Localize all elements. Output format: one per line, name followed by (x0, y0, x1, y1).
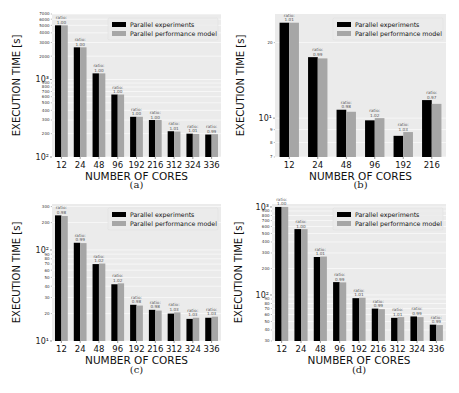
chart-a-xtick-label: 336 (203, 160, 219, 170)
chart-c-bar-model (193, 318, 199, 341)
chart-b-bar-model (432, 104, 442, 157)
chart-c-ytick-minor-label: 90 (44, 252, 50, 257)
chart-c-xtick-label: 216 (147, 344, 163, 354)
chart-c-bar-model (61, 216, 67, 341)
chart-d-xtick-label: 324 (409, 344, 425, 354)
chart-c-ratio-label: 1.02 (113, 278, 123, 283)
chart-d-bar-model (378, 309, 385, 341)
chart-a-xtick-label: 312 (166, 160, 182, 170)
chart-c-bar-experiment (186, 319, 192, 341)
chart-a-bar-experiment (205, 135, 211, 157)
chart-a-bar-model (99, 73, 105, 157)
chart-d-ytick-minor-label: 60 (264, 312, 270, 317)
chart-d-bar-experiment (333, 282, 340, 341)
chart-c-bar-model (80, 243, 86, 341)
chart-d-xtick-label: 192 (351, 344, 367, 354)
chart-c-xtick-label: 12 (56, 344, 67, 354)
chart-b-bar-model (318, 58, 328, 157)
chart-d-caption: (d) (352, 364, 366, 375)
chart-a-ytick-minor-label: 3000 (39, 40, 50, 45)
chart-a-bar-model (80, 47, 86, 157)
chart-a-bar-experiment (186, 134, 192, 157)
chart-b-xtick-label: 24 (312, 160, 323, 170)
chart-a-ratio-label: 1.00 (94, 68, 104, 73)
chart-a-bar-model (118, 95, 124, 157)
chart-b-ratio-label: 0.99 (313, 52, 323, 57)
chart-b-xtick-label: 192 (395, 160, 411, 170)
chart-b-ytick-minor-label: 9 (270, 127, 273, 132)
chart-a-ytick-minor-label: 700 (42, 89, 50, 94)
chart-a-bar-model (61, 25, 67, 157)
chart-d-xtick-label: 312 (390, 344, 406, 354)
chart-c-xtick-label: 312 (166, 344, 182, 354)
chart-c-bar-experiment (149, 310, 155, 341)
chart-d-ratio-label: 0.99 (374, 303, 384, 308)
chart-b-ratio-label: 0.97 (427, 95, 437, 100)
chart-d-ytick-minor-label: 300 (262, 250, 270, 255)
chart-a-bar-model (137, 117, 143, 157)
chart-c-ytick-minor-label: 300 (42, 204, 50, 209)
chart-a-ytick-minor-label: 900 (42, 80, 50, 85)
chart-d-ratio-label: 1.01 (354, 292, 364, 297)
chart-a-ratio-label: 1.00 (57, 20, 67, 25)
chart-a-legend-swatch-experiment (112, 22, 126, 27)
chart-a-bar-experiment (168, 131, 174, 157)
chart-b-ratio-label: 1.01 (285, 17, 295, 22)
chart-c-ratio-label: 0.98 (132, 299, 142, 304)
chart-a-ratio-label: 1.01 (188, 128, 198, 133)
chart-c-ytick-minor-label: 20 (44, 311, 50, 316)
chart-c-legend-swatch-experiment (112, 212, 126, 217)
chart-c-bar-model (155, 311, 161, 341)
chart-c-ratio-label: 1.03 (169, 307, 179, 312)
chart-d-bar-experiment (430, 325, 437, 341)
chart-a-ylabel: EXECUTION TIME [s] (11, 35, 22, 137)
chart-c-xtick-label: 24 (75, 344, 86, 354)
chart-b-legend-label-experiment: Parallel experiments (355, 21, 419, 29)
chart-b-ytick-label: 10¹ (259, 114, 272, 123)
chart-a-bar-model (155, 120, 161, 157)
chart-c-ytick-minor-label: 80 (44, 256, 50, 261)
chart-b-legend-swatch-model (337, 31, 351, 36)
chart-a-ytick-minor-label: 500 (42, 100, 50, 105)
chart-b-bar-experiment (365, 120, 375, 157)
chart-a-ytick-minor-label: 600 (42, 94, 50, 99)
chart-d-xtick-label: 12 (276, 344, 287, 354)
chart-a-bar-model (193, 134, 199, 157)
chart-a-legend-label-model: Parallel performance model (130, 30, 217, 38)
chart-a-xtick-label: 324 (185, 160, 201, 170)
chart-d-ratio-label: 1.01 (316, 251, 326, 256)
chart-c-bar-experiment (130, 305, 136, 341)
chart-c-bar-model (174, 312, 180, 341)
chart-b-ytick-minor-label: 7 (270, 154, 273, 159)
chart-d-bar-model (340, 282, 347, 341)
chart-c-legend-swatch-model (112, 221, 126, 226)
chart-c-ratio-label: 1.02 (94, 258, 104, 263)
chart-a-ytick-minor-label: 400 (42, 108, 50, 113)
chart-d-bar-model (282, 207, 289, 341)
chart-b-legend-label-model: Parallel performance model (355, 30, 442, 38)
chart-d-ytick-minor-label: 800 (262, 213, 270, 218)
chart-a-legend-swatch-model (112, 31, 126, 36)
chart-c-ytick-minor-label: 50 (44, 275, 50, 280)
chart-a-xtick-label: 192 (128, 160, 144, 170)
chart-a-xtick-label: 24 (75, 160, 86, 170)
chart-c-bar-model (99, 264, 105, 341)
chart-d-legend-label-experiment: Parallel experiments (355, 211, 419, 219)
chart-a-caption: (a) (130, 179, 144, 190)
chart-d-xtick-label: 48 (315, 344, 326, 354)
chart-c-ratio-label: 1.03 (207, 311, 217, 316)
chart-d-bar-experiment (372, 309, 379, 341)
chart-c-ytick-label: 10¹ (36, 337, 49, 346)
chart-c-ylabel: EXECUTION TIME [s] (11, 222, 22, 324)
chart-d-ytick-minor-label: 40 (264, 327, 270, 332)
chart-a-ratio-label: 0.99 (207, 129, 217, 134)
chart-d-xtick-label: 96 (334, 344, 345, 354)
chart-c-ratio-label: 1.03 (188, 312, 198, 317)
chart-b-bar-experiment (394, 136, 404, 157)
chart-a-ytick-minor-label: 300 (42, 117, 50, 122)
chart-c-bar-experiment (205, 318, 211, 341)
chart-b-ylabel: EXECUTION TIME [s] (235, 35, 246, 137)
chart-c-bar-model (118, 283, 124, 341)
chart-a-xtick-label: 216 (147, 160, 163, 170)
chart-a-ratio-label: 1.00 (132, 111, 142, 116)
